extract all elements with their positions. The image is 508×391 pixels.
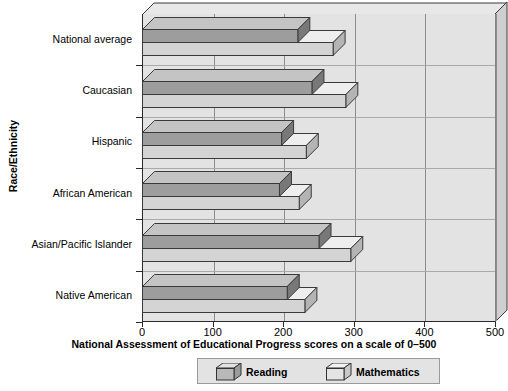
y-axis-tick bbox=[136, 168, 142, 169]
bar-reading bbox=[142, 29, 297, 42]
y-axis-category-label: National average bbox=[6, 33, 132, 45]
y-axis-title: Race/Ethnicity bbox=[7, 91, 19, 221]
plot-box-top-face bbox=[142, 2, 507, 14]
x-gridline bbox=[496, 14, 497, 321]
y-axis-tick bbox=[136, 117, 142, 118]
category-separator bbox=[143, 117, 495, 118]
bar-reading bbox=[142, 286, 287, 299]
mathematics-swatch-icon bbox=[326, 363, 352, 381]
x-axis-tick-label: 0 bbox=[122, 326, 162, 338]
y-axis-category-label: Caucasian bbox=[6, 84, 132, 96]
y-axis-tick bbox=[136, 219, 142, 220]
y-axis-category-label: Asian/Pacific Islander bbox=[6, 238, 132, 250]
legend-label-reading: Reading bbox=[246, 366, 287, 378]
category-separator bbox=[143, 219, 495, 220]
bar-reading bbox=[142, 132, 281, 145]
bar-chart: Race/Ethnicity National Assessment of Ed… bbox=[0, 0, 508, 391]
y-axis-tick bbox=[136, 322, 142, 323]
x-axis-tick-label: 400 bbox=[404, 326, 444, 338]
y-axis-category-label: Hispanic bbox=[6, 135, 132, 147]
reading-swatch-icon bbox=[216, 363, 242, 381]
x-axis-tick-label: 200 bbox=[263, 326, 303, 338]
category-separator bbox=[143, 271, 495, 272]
y-axis-tick bbox=[136, 271, 142, 272]
bar-reading bbox=[142, 81, 311, 94]
bar-reading bbox=[142, 235, 319, 248]
chart-legend: Reading Mathematics bbox=[197, 358, 440, 384]
x-axis-tick-label: 500 bbox=[475, 326, 508, 338]
category-separator bbox=[143, 168, 495, 169]
category-separator bbox=[143, 65, 495, 66]
y-axis-category-label: African American bbox=[6, 187, 132, 199]
x-axis-tick-label: 300 bbox=[334, 326, 374, 338]
legend-label-mathematics: Mathematics bbox=[356, 366, 420, 378]
x-axis-title: National Assessment of Educational Progr… bbox=[0, 338, 508, 350]
y-axis-tick bbox=[136, 65, 142, 66]
x-axis-tick-label: 100 bbox=[193, 326, 233, 338]
y-axis-category-label: Native American bbox=[6, 289, 132, 301]
bar-reading bbox=[142, 183, 279, 196]
